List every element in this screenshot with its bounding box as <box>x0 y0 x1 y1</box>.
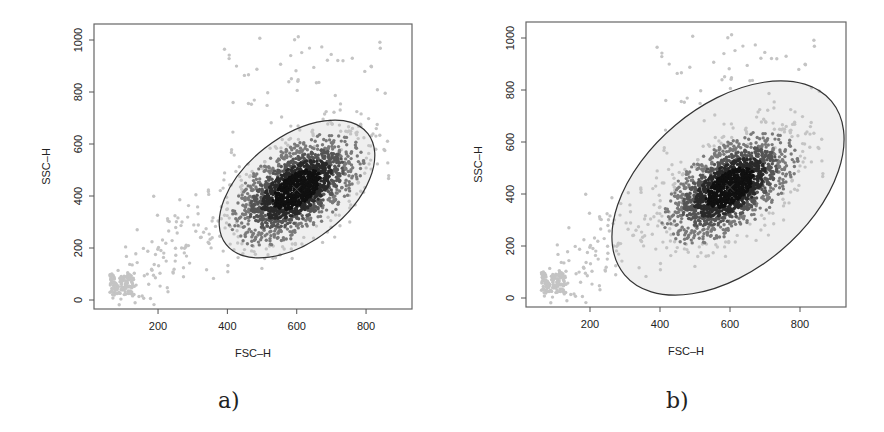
panel-caption-a: a) <box>218 388 240 413</box>
scatter-plot-a: 20040060080002004006008001000FSC–HSSC–H <box>0 0 442 432</box>
y-tick-label: 600 <box>504 133 516 151</box>
x-tick-label: 200 <box>149 320 167 332</box>
x-tick-label: 400 <box>218 320 236 332</box>
x-tick-label: 600 <box>721 318 739 330</box>
x-tick-label: 800 <box>791 318 809 330</box>
x-axis-title: FSC–H <box>668 345 704 357</box>
x-tick-label: 800 <box>357 320 375 332</box>
y-tick-label: 1000 <box>504 26 516 50</box>
y-axis-title: SSC–H <box>472 146 484 183</box>
y-axis-title: SSC–H <box>40 148 52 185</box>
y-tick-label: 800 <box>504 81 516 99</box>
y-tick-label: 400 <box>504 185 516 203</box>
y-tick-label: 800 <box>72 83 84 101</box>
x-tick-label: 600 <box>288 320 306 332</box>
y-tick-label: 200 <box>72 239 84 257</box>
y-tick-label: 0 <box>504 295 516 301</box>
y-tick-label: 200 <box>504 237 516 255</box>
panel-caption-b: b) <box>666 388 689 413</box>
scatter-plot-b: 20040060080002004006008001000FSC–HSSC–H <box>442 0 884 432</box>
x-tick-label: 400 <box>651 318 669 330</box>
panel-b: 20040060080002004006008001000FSC–HSSC–H … <box>442 0 884 432</box>
x-axis-title: FSC–H <box>235 347 271 359</box>
y-tick-label: 1000 <box>72 28 84 52</box>
x-tick-label: 200 <box>581 318 599 330</box>
y-tick-label: 0 <box>72 297 84 303</box>
panel-a: 20040060080002004006008001000FSC–HSSC–H … <box>0 0 442 432</box>
y-tick-label: 400 <box>72 187 84 205</box>
y-tick-label: 600 <box>72 135 84 153</box>
